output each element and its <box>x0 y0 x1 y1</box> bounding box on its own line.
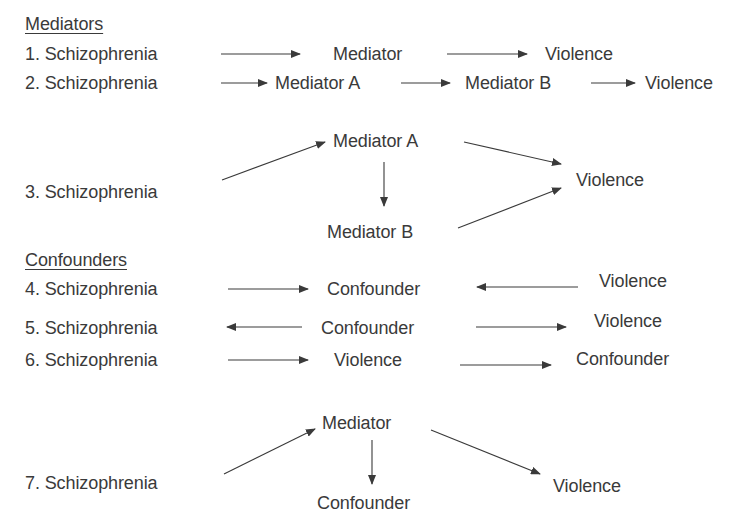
model-6-violence: Violence <box>334 350 402 370</box>
model-1-mediator: Mediator <box>333 44 402 64</box>
model-3-mediator-a: Mediator A <box>333 131 418 151</box>
model-6-confounder: Confounder <box>576 349 669 369</box>
model-3-mediator-b: Mediator B <box>327 222 413 242</box>
model-2-mediator-b: Mediator B <box>465 73 551 93</box>
section-title-confounders: Confounders <box>25 250 127 270</box>
model-3-violence: Violence <box>576 170 644 190</box>
arrow-m7-schizophrenia-to-mediator <box>224 429 315 474</box>
model-1-violence: Violence <box>545 44 613 64</box>
model-3-exposure: 3. Schizophrenia <box>25 182 158 202</box>
model-2-violence: Violence <box>645 73 713 93</box>
arrow-m3-schizophrenia-to-mediator-a <box>222 142 325 180</box>
model-4-violence: Violence <box>599 271 667 291</box>
model-6-exposure: 6. Schizophrenia <box>25 350 158 370</box>
model-7-violence: Violence <box>553 476 621 496</box>
model-7-confounder: Confounder <box>317 493 410 513</box>
model-4-exposure: 4. Schizophrenia <box>25 279 158 299</box>
model-5-violence: Violence <box>594 311 662 331</box>
model-1-exposure: 1. Schizophrenia <box>25 44 158 64</box>
model-5-confounder: Confounder <box>321 318 414 338</box>
model-4-confounder: Confounder <box>327 279 420 299</box>
arrow-m3-mediator-b-to-violence <box>458 188 561 228</box>
model-2-mediator-a: Mediator A <box>275 73 360 93</box>
model-5-exposure: 5. Schizophrenia <box>25 318 158 338</box>
section-title-mediators: Mediators <box>25 14 103 34</box>
arrow-m3-mediator-a-to-violence <box>464 142 561 164</box>
model-7-mediator: Mediator <box>322 413 391 433</box>
model-7-exposure: 7. Schizophrenia <box>25 473 158 493</box>
model-2-exposure: 2. Schizophrenia <box>25 73 158 93</box>
arrow-m7-mediator-to-violence <box>431 430 540 474</box>
